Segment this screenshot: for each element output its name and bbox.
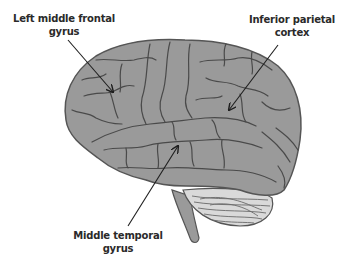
brain-illustration	[0, 0, 343, 262]
label-line-1: Left middle frontal	[13, 12, 115, 25]
label-inferior-parietal-cortex: Inferior parietal cortex	[249, 13, 335, 39]
cerebrum	[65, 40, 301, 196]
label-line-2: gyrus	[13, 25, 115, 38]
label-left-middle-frontal-gyrus: Left middle frontal gyrus	[13, 12, 115, 38]
label-line-2: cortex	[249, 26, 335, 39]
label-middle-temporal-gyrus: Middle temporal gyrus	[73, 229, 163, 255]
label-line-2: gyrus	[73, 242, 163, 255]
label-line-1: Inferior parietal	[249, 13, 335, 26]
brain-diagram: Left middle frontal gyrus Inferior parie…	[0, 0, 343, 262]
label-line-1: Middle temporal	[73, 229, 163, 242]
